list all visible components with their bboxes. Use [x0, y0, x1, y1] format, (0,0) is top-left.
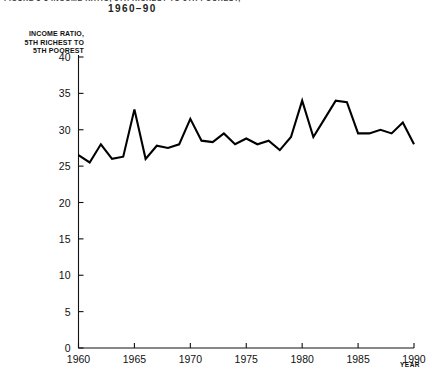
x-axis-ticks: 1960196519701975198019851990 [67, 343, 426, 365]
chart-plot-area: 0510152025303540 19601965197019751980198… [0, 0, 426, 373]
y-tick-label: 25 [59, 160, 71, 172]
y-tick-label: 35 [59, 87, 71, 99]
y-tick-label: 30 [59, 124, 71, 136]
x-tick-label: 1970 [179, 353, 203, 365]
y-tick-label: 20 [59, 197, 71, 209]
axis-lines [79, 55, 415, 348]
y-tick-label: 5 [65, 306, 71, 318]
y-tick-label: 10 [59, 269, 71, 281]
x-axis-caption: YEAR [400, 361, 420, 368]
x-tick-label: 1965 [123, 353, 147, 365]
line-chart-svg: 0510152025303540 19601965197019751980198… [0, 0, 426, 373]
x-tick-label: 1980 [290, 353, 314, 365]
x-tick-label: 1960 [67, 353, 91, 365]
x-tick-label: 1985 [346, 353, 370, 365]
y-tick-label: 15 [59, 233, 71, 245]
data-series-line [79, 101, 415, 163]
x-tick-label: 1975 [235, 353, 259, 365]
y-axis-ticks: 0510152025303540 [59, 51, 84, 354]
y-tick-label: 40 [59, 51, 71, 63]
